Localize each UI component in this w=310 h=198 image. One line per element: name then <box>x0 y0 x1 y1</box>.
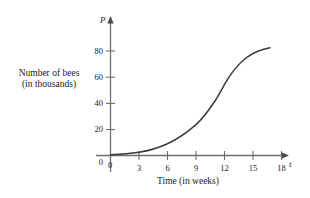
y-tick-label-80: 80 <box>83 47 103 56</box>
x-tick-label-6: 6 <box>160 164 176 173</box>
y-axis-title: Number of bees (in thousands) <box>6 68 92 90</box>
x-tick-label-18: 18 <box>274 164 290 173</box>
graph-plot-area <box>0 0 310 198</box>
bee-population-graph: 0 20 40 60 80 0 3 6 9 12 15 18 P t Numbe… <box>0 0 310 198</box>
y-tick-label-0: 0 <box>83 158 103 167</box>
x-tick-label-15: 15 <box>245 164 261 173</box>
x-tick-label-12: 12 <box>217 164 233 173</box>
x-tick-label-3: 3 <box>131 164 147 173</box>
x-tick-label-9: 9 <box>188 164 204 173</box>
y-tick-label-40: 40 <box>83 99 103 108</box>
y-tick-label-20: 20 <box>83 125 103 134</box>
y-axis-variable-label: P <box>100 15 106 25</box>
x-axis-title: Time (in weeks) <box>128 176 248 187</box>
y-axis-title-line-1: Number of bees <box>6 68 92 79</box>
x-tick-label-0: 0 <box>102 161 118 170</box>
x-axis-arrowhead <box>282 152 290 158</box>
bee-population-curve <box>111 48 271 155</box>
y-axis-title-line-2: (in thousands) <box>6 79 92 90</box>
y-axis-arrowhead <box>107 16 113 24</box>
x-axis-variable-label: t <box>289 159 292 169</box>
